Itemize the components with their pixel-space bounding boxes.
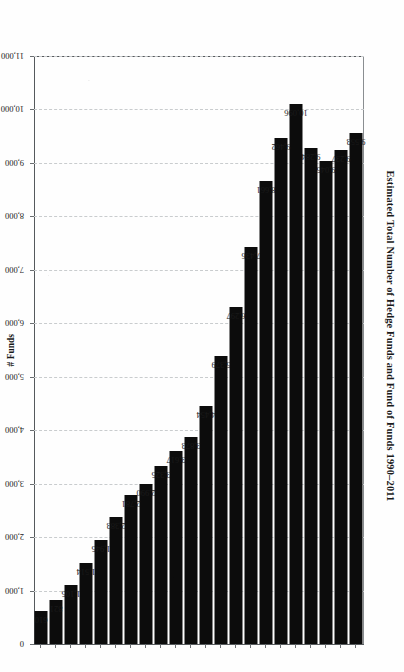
bar-row: 1,9451994 (94, 56, 109, 644)
bar-value-label-text: 9,237 (332, 154, 351, 164)
category-tick (281, 644, 282, 648)
bar-row: 9,2842008 (304, 56, 319, 644)
bar-row: 5,3792002 (214, 56, 229, 644)
category-tick (251, 644, 252, 648)
bar-1997[interactable] (140, 484, 153, 644)
bar-value-label-text: 5,379 (212, 360, 231, 370)
bar-row: 2,9901997 (139, 56, 154, 644)
category-tick (221, 644, 222, 648)
category-tick (266, 644, 267, 648)
value-axis-label-text: # Funds (6, 334, 16, 366)
category-tick (131, 644, 132, 648)
value-axis-label: # Funds (6, 56, 16, 644)
bar-2006[interactable] (275, 138, 288, 644)
bar-value-label-text: 3,617 (167, 455, 186, 465)
rotated-page-wrapper: Estimated Total Number of Hedge Funds an… (0, 0, 404, 672)
bar-value-label-text: 821 (50, 604, 63, 614)
category-tick (341, 644, 342, 648)
bar-row: 4,4542001 (199, 56, 214, 644)
bar-value-label-text: 9,045 (317, 165, 336, 175)
bar-2010[interactable] (335, 150, 348, 644)
bar-2004[interactable] (245, 247, 258, 644)
bar-value-label-text: 3,873 (182, 441, 201, 451)
category-tick (56, 644, 57, 648)
bar-2001[interactable] (200, 406, 213, 644)
bar-row: 3,6171999 (169, 56, 184, 644)
bar-2011[interactable] (350, 133, 363, 644)
bar-row: 9,2372010 (334, 56, 349, 644)
category-tick (41, 644, 42, 648)
bar-2000[interactable] (185, 437, 198, 644)
bar-row: 9,4622006 (274, 56, 289, 644)
category-tick (161, 644, 162, 648)
bar-row: 6,2972003 (229, 56, 244, 644)
bar-2008[interactable] (305, 148, 318, 644)
bar-row: 8,6612005 (259, 56, 274, 644)
category-tick (176, 644, 177, 648)
chart-figure: Estimated Total Number of Hedge Funds an… (0, 0, 404, 672)
bar-row: 3,8732000 (184, 56, 199, 644)
category-tick (191, 644, 192, 648)
bar-value-label-text: 4,454 (197, 410, 216, 420)
bar-value-label-text: 7,436 (242, 251, 261, 261)
bar-row: 1,5141993 (79, 56, 94, 644)
category-tick (206, 644, 207, 648)
value-tick-label-text: 0 (20, 639, 24, 649)
bar-value-label-text: 1,945 (92, 544, 111, 554)
category-tick (311, 644, 312, 648)
bar-1999[interactable] (170, 451, 183, 644)
bar-2005[interactable] (260, 181, 273, 644)
chart-title: Estimated Total Number of Hedge Funds an… (385, 0, 396, 672)
bar-value-label-text: 2,781 (122, 499, 141, 509)
bar-value-label-text: 1,514 (77, 567, 96, 577)
bar-row: 2,3831995 (109, 56, 124, 644)
bar-2007[interactable] (290, 104, 303, 644)
bar-1995[interactable] (110, 517, 123, 644)
bar-value-label-text: 8,661 (257, 185, 276, 195)
bar-1998[interactable] (155, 466, 168, 644)
bar-value-label-text: 1,105 (62, 589, 81, 599)
bar-series: 9,55320119,23720109,04520099,284200810,0… (34, 56, 364, 644)
bar-value-label-text: 610 (35, 615, 48, 625)
category-tick (356, 644, 357, 648)
bar-row: 9,0452009 (319, 56, 334, 644)
bar-value-label-text: 9,462 (272, 142, 291, 152)
bar-row: 7,4362004 (244, 56, 259, 644)
bar-1996[interactable] (125, 495, 138, 644)
plot-area: 11,00010,0009,0008,0007,0006,0005,0004,0… (34, 56, 364, 644)
category-tick (236, 644, 237, 648)
bar-1994[interactable] (95, 540, 108, 644)
bar-2009[interactable] (320, 161, 333, 644)
bar-row: 1,1051992 (64, 56, 79, 644)
category-tick (86, 644, 87, 648)
bar-value-label-text: 6,297 (227, 311, 246, 321)
category-tick (71, 644, 72, 648)
value-tick (30, 644, 34, 645)
bar-value-label-text: 2,383 (107, 521, 126, 531)
bar-value-label-text: 2,990 (137, 488, 156, 498)
bar-row: 10,0962007 (289, 56, 304, 644)
category-tick (296, 644, 297, 648)
bar-row: 9,5532011 (349, 56, 364, 644)
gridline-0 (34, 644, 364, 645)
bar-row: 3,3251998 (154, 56, 169, 644)
category-tick (146, 644, 147, 648)
bar-value-label-text: 9,284 (302, 152, 321, 162)
bar-value-label-text: 3,325 (152, 470, 171, 480)
bar-2003[interactable] (230, 307, 243, 644)
category-tick (116, 644, 117, 648)
bar-row: 8211991 (49, 56, 64, 644)
category-tick (101, 644, 102, 648)
bar-row: 2,7811996 (124, 56, 139, 644)
bar-row: 6101990 (34, 56, 49, 644)
bar-value-label-text: 9,553 (347, 137, 366, 147)
category-tick (326, 644, 327, 648)
bar-2002[interactable] (215, 356, 228, 644)
